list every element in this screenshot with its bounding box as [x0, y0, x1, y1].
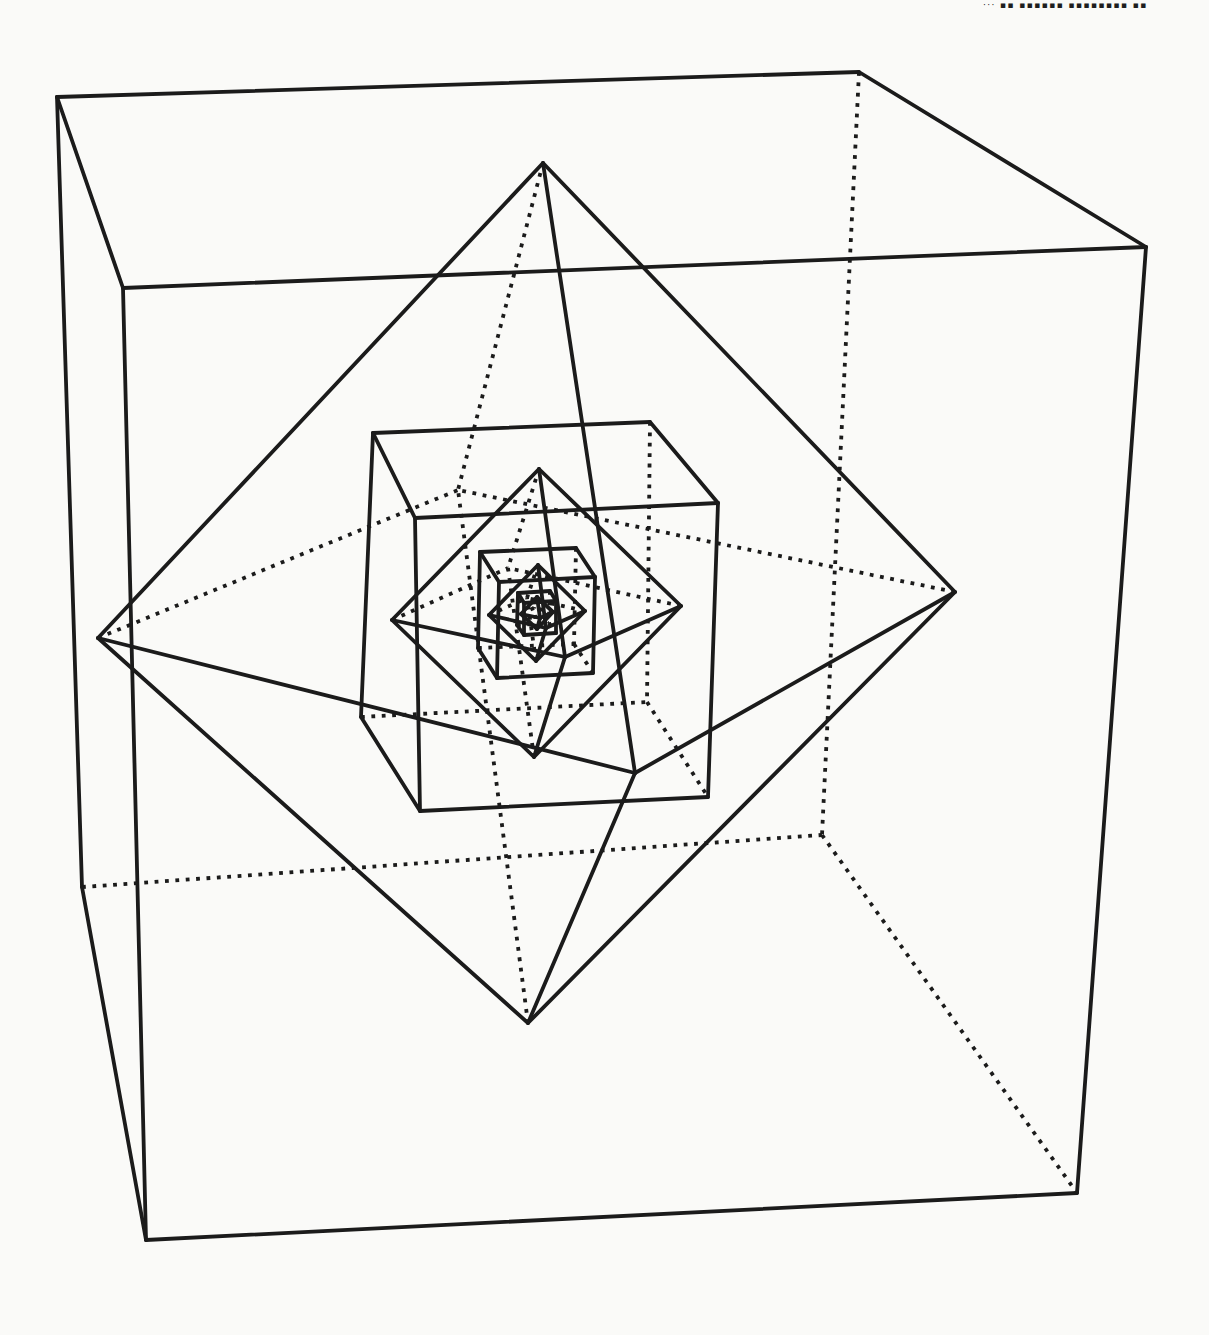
- middle-cube-edge-solid: [373, 433, 415, 518]
- tiny-cube-edge-solid: [524, 633, 556, 635]
- middle-cube-edge-solid: [650, 422, 718, 503]
- outer-octahedron-edge-solid: [543, 163, 955, 592]
- outer-cube-edge-solid: [859, 72, 1146, 247]
- small-cube-edge-solid: [497, 582, 499, 678]
- outer-cube-edge-solid: [146, 1193, 1077, 1240]
- small-cube-edge-solid: [478, 648, 497, 678]
- outer-cube-edge-dotted: [822, 835, 1077, 1193]
- small-cube-edge-solid: [478, 552, 480, 648]
- outer-octahedron-edge-solid: [98, 638, 635, 773]
- outer-octahedron-edge-solid: [635, 592, 955, 773]
- small-cube-edge-solid: [576, 548, 595, 577]
- middle-cube-edge-solid: [361, 717, 420, 811]
- outer-cube-edge-solid: [123, 288, 146, 1240]
- middle-cube-edge-solid: [361, 433, 373, 717]
- outer-cube-edge-solid: [57, 72, 859, 97]
- tiny-cube-edge-solid: [518, 591, 550, 593]
- outer-octahedron-edge-dotted: [458, 163, 543, 490]
- book-page: ··· ▪▪ ▪▪▪▪▪▪ ▪▪▪▪▪▪▪▪ ▪▪: [0, 0, 1209, 1335]
- outer-cube-edge-dotted: [82, 835, 822, 887]
- outer-cube-edge-solid: [82, 887, 146, 1240]
- small-cube-edge-solid: [499, 577, 595, 582]
- outer-cube-edge-solid: [57, 97, 123, 288]
- nested-polyhedra-figure: [0, 0, 1209, 1335]
- middle-cube-edge-solid: [415, 518, 420, 811]
- small-cube-edge-solid: [480, 548, 576, 552]
- outer-cube-edge-solid: [123, 247, 1146, 288]
- middle-cube-edge-solid: [420, 797, 708, 811]
- outer-cube-edge-solid: [57, 97, 82, 887]
- small-cube-edge-dotted: [574, 548, 576, 644]
- small-cube-edge-solid: [593, 577, 595, 673]
- middle-cube-edge-solid: [373, 422, 650, 433]
- middle-cube-edge-solid: [708, 503, 718, 797]
- middle-cube-edge-dotted: [361, 702, 647, 717]
- small-cube-edge-solid: [497, 673, 593, 678]
- outer-octahedron-edge-solid: [528, 773, 635, 1023]
- tiny-cube-edge-solid: [517, 593, 518, 625]
- middle-cube-edge-dotted: [647, 422, 650, 702]
- outer-cube-edge-solid: [1077, 247, 1146, 1193]
- outer-octahedron-edge-solid: [98, 163, 543, 638]
- outer-octahedron-edge-solid: [98, 638, 528, 1023]
